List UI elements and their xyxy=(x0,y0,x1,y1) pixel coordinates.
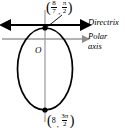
vertex-bottom-comma: , xyxy=(56,121,60,129)
vertex-top-theta-denominator: 2 xyxy=(62,7,68,15)
polar-axis-label: Polar axis xyxy=(88,32,124,52)
vertex-top-open-paren: ( xyxy=(46,2,51,14)
vertex-bottom-theta-numerator: 3π xyxy=(60,113,69,120)
vertex-bottom-theta-fraction: 3π 2 xyxy=(60,113,69,128)
directrix-label: Directrix xyxy=(88,18,119,27)
vertex-top-r-fraction: 8 7 xyxy=(51,0,57,15)
vertex-bottom-label: ( 8 , 3π 2 ) xyxy=(47,113,74,128)
vertex-top-theta-numerator: π xyxy=(62,0,68,7)
origin-label: O xyxy=(35,46,42,55)
vertex-bottom-dot xyxy=(42,107,47,112)
vertex-bottom-theta-denominator: 2 xyxy=(62,120,68,128)
vertex-top-close-paren: ) xyxy=(68,2,73,14)
vertex-top-r-denominator: 7 xyxy=(51,7,57,15)
polar-axis-label-line1: Polar xyxy=(88,31,107,41)
vertex-top-r-numerator: 8 xyxy=(51,0,57,7)
vertex-top-comma: , xyxy=(57,8,61,16)
polar-axis-label-line2: axis xyxy=(88,41,102,51)
vertex-top-label: ( 8 7 , π 2 ) xyxy=(46,0,72,15)
vertex-top-dot xyxy=(42,25,47,30)
vertex-bottom-close-paren: ) xyxy=(70,115,75,127)
vertex-top-theta-fraction: π 2 xyxy=(62,0,68,15)
polar-conic-figure: O Directrix Polar axis ( 8 7 , π 2 ) ( 8… xyxy=(0,0,125,132)
